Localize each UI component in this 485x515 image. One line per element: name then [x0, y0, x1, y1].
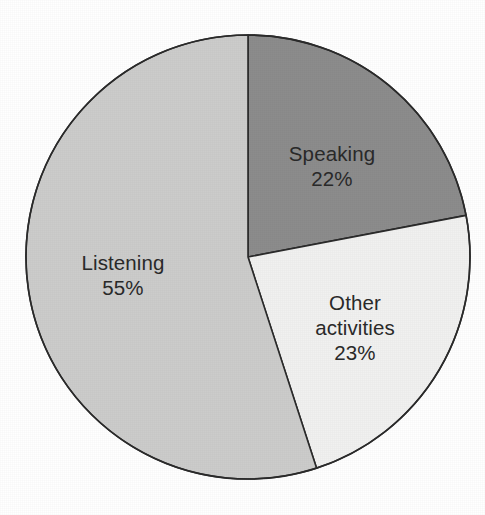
pie-slice-label-other-activities: Other activities 23% — [315, 290, 395, 365]
pie-slice-label-other-activities-value: 23% — [315, 340, 395, 365]
pie-chart-canvas — [0, 0, 485, 515]
pie-slice-label-speaking-name: Speaking — [289, 141, 375, 166]
pie-slice-label-other-activities-name-line2: activities — [315, 315, 395, 340]
pie-slice-label-speaking-value: 22% — [289, 166, 375, 191]
pie-slice-label-speaking: Speaking 22% — [289, 141, 375, 191]
pie-slice-label-listening-name: Listening — [82, 250, 165, 275]
pie-slice-label-other-activities-name-line1: Other — [315, 290, 395, 315]
pie-slice-label-listening: Listening 55% — [82, 250, 165, 300]
pie-chart-figure: Speaking 22% Other activities 23% Listen… — [0, 0, 485, 515]
pie-slice-label-listening-value: 55% — [82, 275, 165, 300]
